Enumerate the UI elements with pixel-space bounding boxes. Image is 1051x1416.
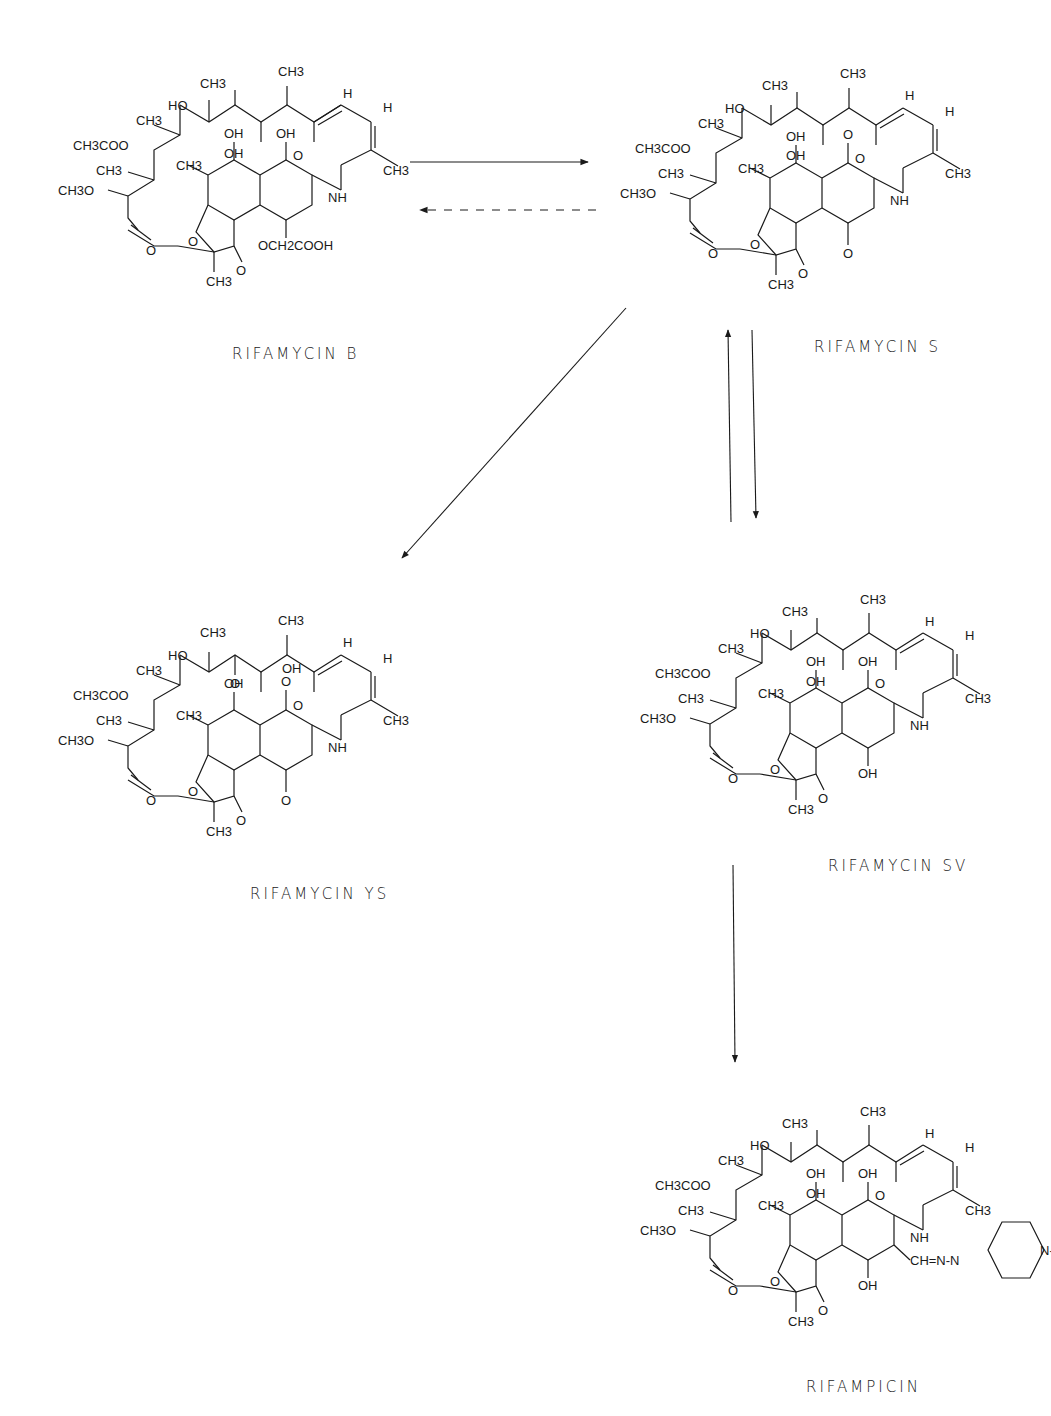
label-ch3-22: CH3 — [762, 78, 788, 93]
label-c4: O — [843, 246, 853, 261]
label-ch3-16: CH3 — [383, 163, 409, 178]
label-ch3-14: CH3 — [176, 158, 202, 173]
label-ch3-14: CH3 — [758, 686, 784, 701]
molecule-rifampicin: HO CH3 CH3 OH H H CH3 O NH CH3 CH3COO CH… — [610, 1090, 1050, 1354]
label-ho23: HO — [750, 1138, 770, 1153]
label-ch3-24: CH3 — [698, 116, 724, 131]
label-ch3-26: CH3 — [678, 691, 704, 706]
structure-rifamycin-sv: HO CH3 CH3 OH H H CH3 O NH CH3 CH3COO CH… — [610, 578, 1010, 838]
label-methoxy: CH3O — [620, 186, 656, 201]
label-h18: H — [925, 1126, 934, 1141]
label-ho23: HO — [750, 626, 770, 641]
label-o11: O — [236, 263, 246, 278]
label-ch3-16: CH3 — [965, 1203, 991, 1218]
label-ch3-20: CH3 — [278, 64, 304, 79]
caption-rifampicin: RIFAMPICIN — [806, 1378, 921, 1396]
label-ho23: HO — [168, 648, 188, 663]
label-oh8: OH — [224, 126, 244, 141]
caption-rifamycin-sv: RIFAMYCIN SV — [828, 857, 968, 875]
label-ch3-14: CH3 — [738, 161, 764, 176]
structure-rifampicin: HO CH3 CH3 OH H H CH3 O NH CH3 CH3COO CH… — [610, 1090, 1050, 1350]
label-o-ring: O — [770, 1274, 780, 1289]
label-oh8: OH — [806, 654, 826, 669]
label-ch3-16: CH3 — [965, 691, 991, 706]
label-ch3-26: CH3 — [96, 713, 122, 728]
label-nh: NH — [328, 740, 347, 755]
label-nh: NH — [328, 190, 347, 205]
caption-rifamycin-ys: RIFAMYCIN YS — [250, 885, 389, 903]
label-c4: OH — [858, 1278, 878, 1293]
label-c1: O — [281, 674, 291, 689]
label-ch3-26: CH3 — [658, 166, 684, 181]
label-o29: O — [728, 771, 738, 786]
label-oh21: OH — [224, 146, 244, 161]
label-o29: O — [146, 793, 156, 808]
label-oh21: OH — [806, 674, 826, 689]
label-c1: OH — [276, 126, 296, 141]
label-ch3-13: CH3 — [788, 802, 814, 817]
molecule-rifamycin-sv: HO CH3 CH3 OH H H CH3 O NH CH3 CH3COO CH… — [610, 578, 1010, 842]
label-o11: O — [818, 791, 828, 806]
label-h17: H — [965, 628, 974, 643]
molecule-rifamycin-s: HO CH3 CH3 OH H H CH3 O NH CH3 CH3COO CH… — [610, 50, 990, 314]
label-ch3-24: CH3 — [718, 641, 744, 656]
label-h18: H — [343, 86, 352, 101]
label-ch3-14: CH3 — [176, 708, 202, 723]
label-ch3-13: CH3 — [206, 824, 232, 839]
label-nh: NH — [910, 1230, 929, 1245]
label-oh8: OH — [224, 676, 244, 691]
label-ch3-20: CH3 — [860, 592, 886, 607]
arrow-s-to-ys — [402, 308, 626, 558]
label-ch3-13: CH3 — [206, 274, 232, 289]
label-methoxy: CH3O — [58, 183, 94, 198]
label-ch3-20: CH3 — [840, 66, 866, 81]
label-ch3-22: CH3 — [782, 1116, 808, 1131]
label-ch3-24: CH3 — [136, 113, 162, 128]
label-o29: O — [146, 243, 156, 258]
structure-rifamycin-s: HO CH3 CH3 OH H H CH3 O NH CH3 CH3COO CH… — [610, 50, 990, 310]
label-ch3-14: CH3 — [758, 1198, 784, 1213]
arrow-sv-to-s — [728, 330, 731, 522]
label-c1: OH — [858, 1166, 878, 1181]
label-oh8: OH — [786, 129, 806, 144]
label-methoxy: CH3O — [640, 711, 676, 726]
label-h17: H — [383, 100, 392, 115]
label-o11: O — [798, 266, 808, 281]
label-ch3-26: CH3 — [96, 163, 122, 178]
label-n-methyl: N-CH3 — [1040, 1243, 1051, 1258]
label-acetoxy: CH3COO — [73, 688, 129, 703]
label-ch3-20: CH3 — [860, 1104, 886, 1119]
label-c4: O — [281, 793, 291, 808]
label-hydrazone: CH=N-N — [910, 1253, 959, 1268]
label-oh8: OH — [806, 1166, 826, 1181]
label-h17: H — [383, 651, 392, 666]
label-acetoxy: CH3COO — [635, 141, 691, 156]
label-nh: NH — [910, 718, 929, 733]
label-ch3-16: CH3 — [945, 166, 971, 181]
label-acetoxy: CH3COO — [655, 1178, 711, 1193]
label-o15: O — [855, 151, 865, 166]
label-oh21: OH — [806, 1186, 826, 1201]
label-o11: O — [236, 813, 246, 828]
label-o15: O — [293, 698, 303, 713]
label-o-ring: O — [770, 762, 780, 777]
label-h17: H — [965, 1140, 974, 1155]
label-h17: H — [945, 104, 954, 119]
molecule-rifamycin-ys: HO CH3 CH3 O OH H H CH3 O NH CH3 CH3COO … — [28, 595, 428, 859]
label-c1: OH — [858, 654, 878, 669]
label-o-ring: O — [750, 237, 760, 252]
structure-rifamycin-b: HO CH3 CH3 OH H H CH3 O NH CH3 CH3COO CH… — [28, 50, 408, 310]
label-ho23: HO — [168, 98, 188, 113]
label-oh21: OH — [786, 148, 806, 163]
label-o-ring: O — [188, 234, 198, 249]
label-o11: O — [818, 1303, 828, 1318]
label-o29: O — [728, 1283, 738, 1298]
label-c4: OH — [858, 766, 878, 781]
label-ho23: HO — [725, 101, 745, 116]
arrow-s-to-sv — [752, 330, 756, 518]
label-ch3-24: CH3 — [136, 663, 162, 678]
label-o15: O — [875, 676, 885, 691]
structure-rifamycin-ys: HO CH3 CH3 O OH H H CH3 O NH CH3 CH3COO … — [28, 595, 428, 855]
label-ch3-13: CH3 — [788, 1314, 814, 1329]
molecule-rifamycin-b: HO CH3 CH3 OH H H CH3 O NH CH3 CH3COO CH… — [28, 50, 408, 314]
